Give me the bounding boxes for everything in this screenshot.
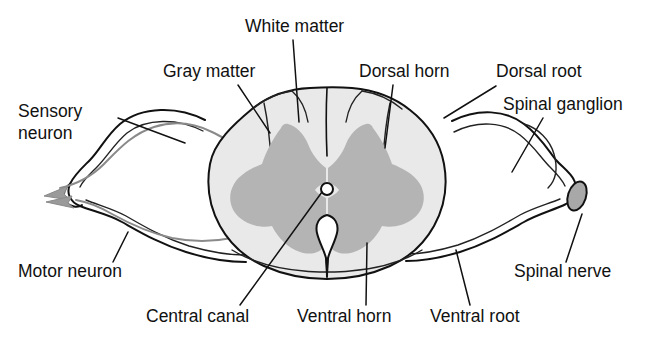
label-spinal-nerve: Spinal nerve bbox=[514, 261, 611, 281]
right-dorsal-root-inner-edge bbox=[454, 124, 565, 186]
leader-spinal-nerve bbox=[566, 214, 582, 262]
right-nerve-cut-face bbox=[564, 179, 590, 213]
label-sensory-neuron-line2: neuron bbox=[18, 123, 73, 143]
central-canal bbox=[321, 183, 333, 195]
spinal-cord-figure: Sensory neuron Gray matter White matter … bbox=[0, 0, 654, 360]
label-motor-neuron: Motor neuron bbox=[18, 261, 122, 281]
label-dorsal-root: Dorsal root bbox=[496, 61, 582, 81]
leader-ventral-horn bbox=[366, 243, 367, 305]
label-white-matter: White matter bbox=[245, 16, 344, 36]
dorsal-median-sulcus bbox=[326, 88, 327, 156]
label-ventral-horn: Ventral horn bbox=[297, 306, 391, 326]
spinal-cord-diagram: Sensory neuron Gray matter White matter … bbox=[0, 0, 654, 360]
label-spinal-ganglion: Spinal ganglion bbox=[503, 94, 623, 114]
motor-fibre-trace bbox=[76, 200, 232, 241]
label-central-canal: Central canal bbox=[146, 306, 249, 326]
leader-ventral-root bbox=[456, 250, 470, 305]
leader-motor-neuron bbox=[113, 232, 128, 262]
label-gray-matter: Gray matter bbox=[163, 61, 256, 81]
label-dorsal-horn: Dorsal horn bbox=[359, 61, 449, 81]
label-ventral-root: Ventral root bbox=[430, 306, 520, 326]
label-sensory-neuron-line1: Sensory bbox=[18, 101, 82, 121]
